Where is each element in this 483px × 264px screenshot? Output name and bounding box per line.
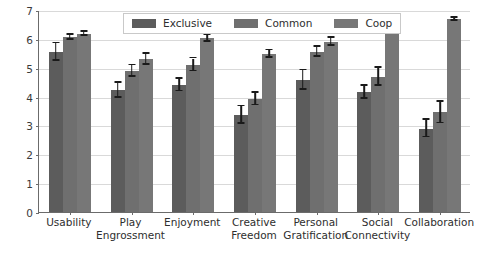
bar-exclusive[interactable] [419,11,433,212]
error-cap-upper [128,64,135,66]
y-tick-mark [36,126,39,127]
error-cap-lower [176,90,183,92]
error-bar [302,70,304,90]
bar-rect [186,65,200,212]
error-bar [425,120,427,137]
error-cap-lower [423,136,430,138]
bar-rect [447,19,461,212]
y-tick-label: 3 [26,121,33,132]
bar-group [296,11,338,212]
bar-rect [200,38,214,212]
error-cap-upper [313,45,320,47]
error-bar [378,68,380,86]
x-tick-mark [317,212,318,215]
error-cap-lower [375,84,382,86]
error-cap-lower [361,97,368,99]
error-cap-lower [80,34,87,36]
legend-label: Common [265,18,312,29]
bar-rect [371,77,385,212]
x-tick-mark [70,212,71,215]
bar-group [357,11,399,212]
bar-group [49,11,91,212]
bar-group [111,11,153,212]
error-cap-upper [190,57,197,59]
bar-coop[interactable] [200,11,214,212]
bar-common[interactable] [433,11,447,212]
bar-coop[interactable] [139,11,153,212]
error-cap-lower [451,19,458,21]
x-tick-mark [193,212,194,215]
bar-rect [139,59,153,212]
error-cap-upper [252,91,259,93]
error-cap-lower [190,70,197,72]
bar-common[interactable] [125,11,139,212]
bar-common[interactable] [186,11,200,212]
bar-exclusive[interactable] [357,11,371,212]
error-cap-upper [375,66,382,68]
y-tick-label: 6 [26,35,33,46]
bar-rect [419,129,433,212]
bar-group [234,11,276,212]
error-cap-lower [66,38,73,40]
bar-rect [111,90,125,212]
y-tick-label: 5 [26,63,33,74]
bar-rect [63,37,77,212]
bar-rect [357,92,371,212]
bar-exclusive[interactable] [111,11,125,212]
bar-group [419,11,461,212]
x-tick-mark [378,212,379,215]
error-cap-upper [238,105,245,107]
error-cap-upper [52,42,59,44]
bar-rect [234,115,248,212]
legend-item-exclusive[interactable]: Exclusive [132,18,212,29]
error-cap-upper [176,77,183,79]
y-tick-mark [36,40,39,41]
chart-legend: ExclusiveCommonCoop [123,13,401,34]
bar-coop[interactable] [447,11,461,212]
bar-coop[interactable] [324,11,338,212]
error-cap-upper [361,84,368,86]
bar-coop[interactable] [77,11,91,212]
bar-common[interactable] [248,11,262,212]
error-cap-upper [114,81,121,83]
error-cap-upper [437,100,444,102]
error-cap-upper [142,52,149,54]
bar-exclusive[interactable] [49,11,63,212]
bar-exclusive[interactable] [234,11,248,212]
bar-exclusive[interactable] [172,11,186,212]
error-bar [240,106,242,123]
legend-item-coop[interactable]: Coop [334,18,392,29]
bar-common[interactable] [63,11,77,212]
error-cap-upper [327,36,334,38]
y-tick-label: 2 [26,150,33,161]
error-bar [55,43,57,60]
error-cap-lower [128,75,135,77]
bar-coop[interactable] [262,11,276,212]
error-cap-upper [266,49,273,51]
error-cap-lower [313,55,320,57]
error-cap-upper [80,30,87,32]
error-cap-lower [114,96,121,98]
error-cap-lower [437,122,444,124]
error-cap-lower [238,122,245,124]
bar-coop[interactable] [385,11,399,212]
y-tick-mark [36,184,39,185]
error-cap-upper [299,69,306,71]
x-tick-label: Collaboration [402,216,476,229]
legend-label: Coop [365,18,392,29]
legend-item-common[interactable]: Common [234,18,312,29]
plot-area: 01234567 [38,11,470,213]
bar-group [172,11,214,212]
error-cap-lower [252,104,259,106]
bar-exclusive[interactable] [296,11,310,212]
legend-swatch [234,19,258,28]
bar-rect [324,42,338,212]
y-tick-label: 1 [26,179,33,190]
bar-rect [77,34,91,212]
y-tick-mark [36,11,39,12]
bar-common[interactable] [371,11,385,212]
bar-rect [172,85,186,212]
bar-common[interactable] [310,11,324,212]
legend-swatch [334,19,358,28]
legend-swatch [132,19,156,28]
